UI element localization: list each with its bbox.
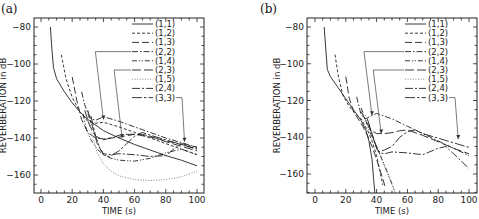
- y-tick-label: −140: [6, 133, 31, 143]
- annotation-arrow: [176, 98, 185, 142]
- x-tick-label: 60: [402, 195, 414, 205]
- x-tick-label: 0: [38, 195, 44, 205]
- series-line-11: [324, 27, 375, 196]
- y-axis-title: REVERBERATION in dB: [0, 58, 8, 154]
- x-axis-title: TIME (s): [374, 206, 409, 216]
- y-tick-label: −160: [279, 169, 304, 179]
- x-tick-label: 100: [460, 195, 477, 205]
- annotation-arrow: [114, 70, 131, 138]
- y-tick-label: −100: [279, 59, 304, 69]
- plot-frame: [34, 18, 204, 193]
- series-line-22: [82, 92, 197, 148]
- x-tick-label: 80: [432, 195, 444, 205]
- series-line-24: [367, 119, 469, 169]
- annotation-arrow: [364, 52, 404, 116]
- annotation-arrow: [95, 52, 131, 120]
- y-tick-label: −120: [6, 96, 31, 106]
- y-axis-title: REVERBERATION in dB: [272, 58, 282, 154]
- series-line-13: [346, 77, 386, 189]
- series-line-33: [369, 124, 469, 151]
- x-tick-label: 20: [66, 195, 78, 205]
- y-tick-label: −80: [285, 22, 304, 32]
- plot-frame: [307, 18, 477, 193]
- chart-a: 020406080100−80−100−120−140−160TIME (s)R…: [0, 0, 240, 219]
- x-tick-label: 80: [160, 195, 172, 205]
- x-tick-label: 0: [312, 195, 318, 205]
- x-tick-label: 40: [98, 195, 110, 205]
- legend-item: (3,3): [155, 93, 175, 103]
- annotation-arrow: [449, 98, 458, 139]
- panel-a: (a) 020406080100−80−100−120−140−160TIME …: [0, 0, 240, 219]
- y-tick-label: −140: [279, 132, 304, 142]
- series-line-14: [83, 114, 197, 161]
- legend-item: (3,3): [428, 93, 448, 103]
- x-tick-label: 20: [340, 195, 352, 205]
- y-tick-label: −120: [279, 96, 304, 106]
- y-tick-label: −100: [6, 59, 31, 69]
- chart-b: 020406080100−80−100−120−140−160TIME (s)R…: [240, 0, 479, 219]
- x-tick-label: 100: [188, 195, 205, 205]
- y-tick-label: −80: [12, 22, 31, 32]
- x-tick-label: 60: [129, 195, 141, 205]
- x-axis-title: TIME (s): [101, 206, 136, 216]
- panel-b: (b) 020406080100−80−100−120−140−160TIME …: [240, 0, 479, 219]
- annotation-arrow: [373, 70, 404, 134]
- series-line-13: [72, 77, 197, 149]
- y-tick-label: −160: [6, 170, 31, 180]
- x-tick-label: 40: [371, 195, 383, 205]
